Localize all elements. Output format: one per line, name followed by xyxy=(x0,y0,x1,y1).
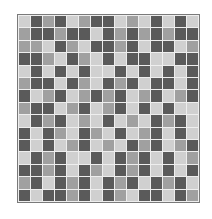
grid-cell xyxy=(55,66,66,77)
grid-cell xyxy=(139,66,150,77)
grid-cell xyxy=(103,190,114,201)
grid-cell xyxy=(115,177,126,188)
grid-cell xyxy=(19,103,30,114)
grid-cell xyxy=(115,53,126,64)
grid-cell xyxy=(91,16,102,27)
grid-cell xyxy=(31,78,42,89)
grid-cell xyxy=(55,28,66,39)
grid-cell xyxy=(175,41,186,52)
grid-cell xyxy=(151,140,162,151)
grid-cell xyxy=(115,28,126,39)
grid-cell xyxy=(163,66,174,77)
grid-cell xyxy=(127,128,138,139)
grid-cell xyxy=(151,115,162,126)
grid-cell xyxy=(43,28,54,39)
grid-cell xyxy=(19,140,30,151)
grid-cell xyxy=(43,53,54,64)
grid-cell xyxy=(91,152,102,163)
grid-cell xyxy=(79,165,90,176)
grid-cell xyxy=(67,41,78,52)
grid-cell xyxy=(79,90,90,101)
grid-cell xyxy=(187,140,198,151)
grid-cell xyxy=(43,140,54,151)
grid-cell xyxy=(127,53,138,64)
grid-cell xyxy=(127,115,138,126)
grid-cell xyxy=(115,128,126,139)
grid-cell xyxy=(115,190,126,201)
grid-cell xyxy=(55,190,66,201)
grid-cell xyxy=(187,16,198,27)
grid-cell xyxy=(103,103,114,114)
grid-cell xyxy=(163,103,174,114)
grid-cell xyxy=(55,152,66,163)
grid-cell xyxy=(127,103,138,114)
grid-cell xyxy=(139,140,150,151)
grid-cell xyxy=(187,90,198,101)
grid-cell xyxy=(115,165,126,176)
grid-cell xyxy=(79,66,90,77)
grid-cell xyxy=(43,152,54,163)
grid-cell xyxy=(175,128,186,139)
grid-cell xyxy=(79,140,90,151)
grid-cell xyxy=(139,190,150,201)
grid-cell xyxy=(139,152,150,163)
grid-cell xyxy=(187,152,198,163)
grid-cell xyxy=(163,16,174,27)
grid-cell xyxy=(67,78,78,89)
grid-cell xyxy=(115,115,126,126)
grid-cell xyxy=(31,28,42,39)
grid-cell xyxy=(187,78,198,89)
grid-cell xyxy=(91,78,102,89)
grid-cell xyxy=(175,53,186,64)
grid-cell xyxy=(175,103,186,114)
grid-cell xyxy=(67,140,78,151)
grid-cell xyxy=(151,53,162,64)
grid-cell xyxy=(19,41,30,52)
grid-cell xyxy=(91,66,102,77)
grid-cell xyxy=(79,41,90,52)
grid-cell xyxy=(139,165,150,176)
grid-cell xyxy=(151,128,162,139)
grid-cell xyxy=(67,16,78,27)
grid-cell xyxy=(55,16,66,27)
grid-cell xyxy=(115,41,126,52)
grid-cell xyxy=(103,53,114,64)
grid-cell xyxy=(43,103,54,114)
grid-cell xyxy=(151,41,162,52)
grid-cell xyxy=(31,177,42,188)
grid-cell xyxy=(67,53,78,64)
grid-cell xyxy=(43,41,54,52)
grid-cell xyxy=(67,177,78,188)
grid-cell xyxy=(31,115,42,126)
grid-cell xyxy=(19,177,30,188)
grid-cell xyxy=(163,53,174,64)
grid-cell xyxy=(19,128,30,139)
grid-cell xyxy=(43,165,54,176)
grid-cell xyxy=(31,66,42,77)
grid-cell xyxy=(31,152,42,163)
grid-cell xyxy=(19,115,30,126)
grid-cell xyxy=(175,152,186,163)
grid-cell xyxy=(115,140,126,151)
grid-cell xyxy=(19,28,30,39)
grid-cell xyxy=(139,177,150,188)
grid-cell xyxy=(67,190,78,201)
grid-cell xyxy=(103,115,114,126)
grid-cell xyxy=(127,28,138,39)
grid-cell xyxy=(103,152,114,163)
grid-cell xyxy=(175,90,186,101)
grid-cell xyxy=(127,41,138,52)
grid-cell xyxy=(31,53,42,64)
grid-cell xyxy=(91,53,102,64)
grid-cell xyxy=(31,140,42,151)
grid-cell xyxy=(115,90,126,101)
grid-cell xyxy=(103,41,114,52)
grid-cell xyxy=(31,41,42,52)
grid-cell xyxy=(127,78,138,89)
grid-cell xyxy=(19,53,30,64)
grid-cell xyxy=(187,190,198,201)
grid-cell xyxy=(79,103,90,114)
grid-cell xyxy=(163,128,174,139)
grid-cell xyxy=(151,190,162,201)
grid-cell xyxy=(43,66,54,77)
